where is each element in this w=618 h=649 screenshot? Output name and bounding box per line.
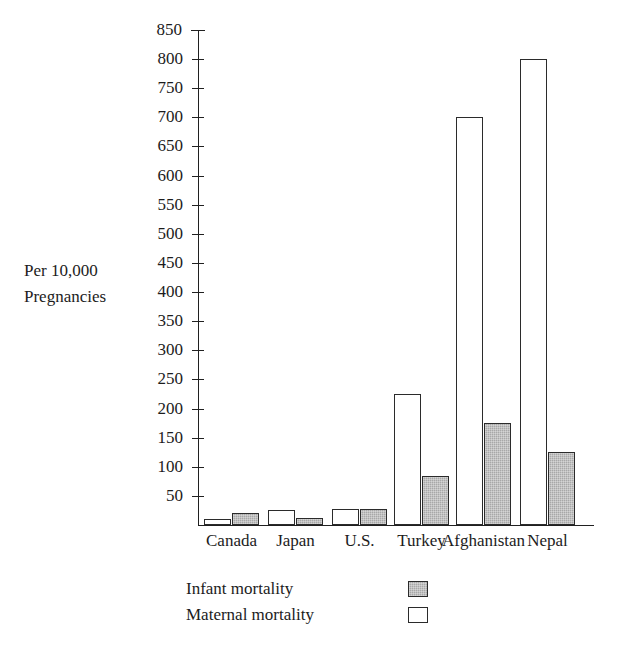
y-tick-label: 450	[158, 253, 184, 272]
y-tick-label: 150	[158, 428, 184, 447]
bar-maternal-canada	[204, 519, 231, 525]
y-tick-700: 700	[192, 117, 204, 118]
y-tick-500: 500	[192, 234, 204, 235]
y-tick-label: 100	[158, 457, 184, 476]
y-tick-750: 750	[192, 88, 204, 89]
chart-legend: Infant mortalityMaternal mortality	[186, 578, 446, 630]
bar-group-turkey	[394, 30, 449, 525]
legend-item: Maternal mortality	[186, 604, 446, 630]
legend-item: Infant mortality	[186, 578, 446, 604]
y-tick-650: 650	[192, 146, 204, 147]
y-tick-label: 350	[158, 311, 184, 330]
y-tick-250: 250	[192, 379, 204, 380]
x-label-nepal: Nepal	[506, 530, 589, 552]
bar-maternal-turkey	[394, 394, 421, 525]
y-tick-label: 700	[158, 107, 184, 126]
legend-swatch-infant	[408, 581, 428, 597]
y-tick-label: 850	[157, 20, 183, 39]
y-tick-label: 550	[158, 195, 184, 214]
bar-infant-afghanistan	[484, 423, 511, 525]
y-tick-label: 400	[158, 282, 184, 301]
y-tick-600: 600	[192, 176, 204, 177]
y-tick-label: 650	[158, 136, 184, 155]
y-tick-450: 450	[192, 263, 204, 264]
y-tick-400: 400	[192, 292, 204, 293]
bar-maternal-afghanistan	[456, 117, 483, 525]
legend-swatch-maternal	[408, 607, 428, 623]
bar-group-nepal	[520, 30, 575, 525]
bar-chart: Per 10,000 Pregnancies 85080075070065060…	[0, 0, 618, 649]
bar-maternal-nepal	[520, 59, 547, 525]
y-axis-label: Per 10,000 Pregnancies	[24, 258, 144, 310]
y-tick-label: 50	[166, 486, 183, 505]
legend-label: Infant mortality	[186, 578, 293, 600]
bar-infant-nepal	[548, 452, 575, 525]
y-tick-label: 500	[158, 224, 184, 243]
y-tick-200: 200	[192, 409, 204, 410]
y-tick-label: 750	[158, 78, 184, 97]
bar-maternal-us	[332, 509, 359, 525]
bar-infant-us	[360, 509, 387, 525]
x-axis-line	[198, 525, 594, 526]
bar-infant-japan	[296, 518, 323, 525]
bar-group-afghanistan	[456, 30, 511, 525]
bar-group-us	[332, 30, 387, 525]
y-tick-50: 50	[192, 496, 204, 497]
legend-label: Maternal mortality	[186, 604, 314, 626]
y-tick-350: 350	[192, 321, 204, 322]
bar-maternal-japan	[268, 510, 295, 525]
y-tick-label: 800	[158, 49, 184, 68]
y-tick-300: 300	[192, 350, 204, 351]
bar-infant-canada	[232, 513, 259, 525]
y-tick-label: 250	[158, 369, 184, 388]
bar-group-canada	[204, 30, 259, 525]
y-tick-100: 100	[192, 467, 204, 468]
bar-group-japan	[268, 30, 323, 525]
y-tick-label: 600	[158, 166, 184, 185]
y-tick-150: 150	[192, 438, 204, 439]
plot-area: 8508007507006506005505004504003503002502…	[198, 20, 598, 530]
y-tick-850: 850	[191, 30, 205, 31]
y-tick-label: 300	[158, 340, 184, 359]
y-tick-550: 550	[192, 205, 204, 206]
y-tick-label: 200	[158, 399, 184, 418]
y-axis-line	[198, 30, 199, 526]
y-tick-800: 800	[192, 59, 204, 60]
bar-infant-turkey	[422, 476, 449, 526]
